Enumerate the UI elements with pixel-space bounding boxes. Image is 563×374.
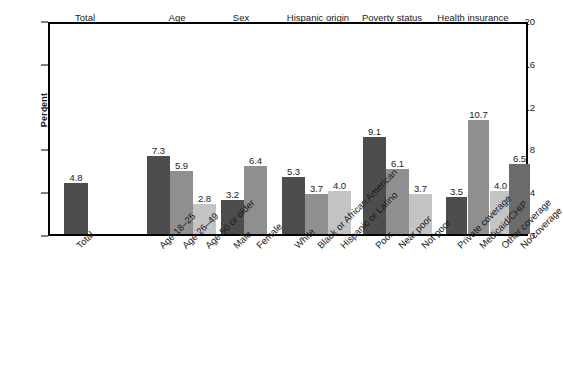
- y-tick-mark-4: [41, 193, 48, 194]
- bar-value-label: 3.7: [310, 183, 323, 194]
- bar-value-label: 4.0: [494, 180, 507, 191]
- bar: [282, 177, 305, 234]
- bar-value-label: 9.1: [368, 126, 381, 137]
- bar-value-label: 2.8: [198, 193, 211, 204]
- bar-value-label: 5.3: [287, 166, 300, 177]
- bar-value-label: 7.3: [152, 145, 165, 156]
- bar-value-label: 3.7: [414, 183, 427, 194]
- bar-value-label: 4.8: [69, 172, 82, 183]
- bar-value-label: 3.5: [450, 186, 463, 197]
- bar-value-label: 10.7: [469, 109, 488, 120]
- bar-value-label: 6.5: [513, 153, 526, 164]
- bar-value-label: 6.4: [249, 155, 262, 166]
- y-tick-mark-0: [41, 236, 48, 237]
- y-tick-mark-12: [41, 107, 48, 108]
- bar: [147, 156, 170, 234]
- bar-value-label: 4.0: [333, 180, 346, 191]
- bar: [64, 183, 88, 234]
- y-tick-mark-16: [41, 64, 48, 65]
- bar-value-label: 5.9: [175, 160, 188, 171]
- bar-value-label: 3.2: [226, 189, 239, 200]
- y-tick-mark-8: [41, 150, 48, 151]
- plot-area: [48, 22, 528, 236]
